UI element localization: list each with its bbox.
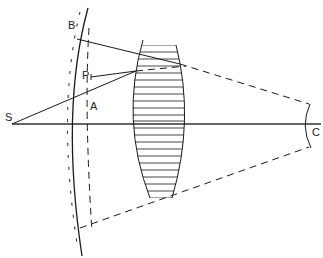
label-a: A [90,100,98,112]
label-b: B [68,19,75,31]
lens-right-edge [172,45,185,198]
ray-s-to-lens [12,71,136,124]
lens [120,40,200,198]
optics-diagram: S B P A C [0,0,323,258]
upper-marginal-ray [180,64,309,104]
label-c: C [312,126,320,138]
lens-hatching [120,45,200,198]
reference-surface-dashed [87,28,92,232]
lens-left-edge [133,40,150,198]
wavefront-solid [72,8,88,256]
line-b-to-lens [77,39,180,64]
mirror-c [305,104,311,148]
ray-continuation-dashed [136,66,186,71]
label-p: P [82,69,89,81]
lower-marginal-ray [80,147,309,228]
label-s: S [5,111,12,123]
wavefront-dashed-ticks [67,12,80,250]
